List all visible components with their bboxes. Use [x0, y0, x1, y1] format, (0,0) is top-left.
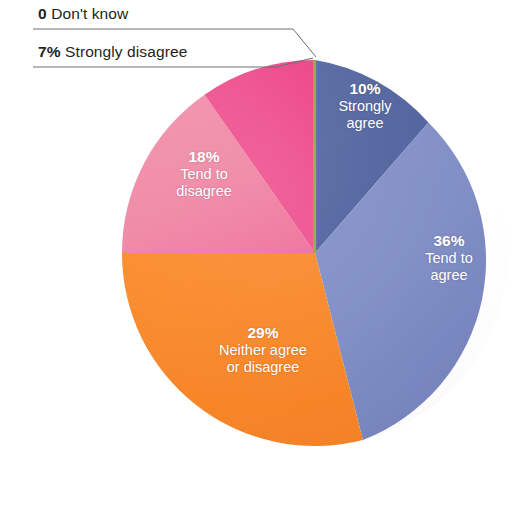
slice-text-strongly-agree-line2: agree	[322, 115, 408, 132]
slice-label-strongly-agree: 10% Strongly agree	[322, 80, 408, 133]
slice-value-neither: 29%	[178, 324, 348, 342]
callout-label-strongly-disagree: 7% Strongly disagree	[38, 43, 187, 61]
slice-value-tend-to-agree: 36%	[404, 232, 494, 250]
callout-text-strongly-disagree: Strongly disagree	[65, 43, 187, 60]
slice-text-strongly-agree-line1: Strongly	[322, 98, 408, 115]
slice-label-tend-to-disagree: 18% Tend to disagree	[152, 148, 256, 201]
slice-text-tend-to-disagree-line1: Tend to	[152, 166, 256, 183]
callout-text-dont-know: Don't know	[51, 5, 128, 22]
slice-value-tend-to-disagree: 18%	[152, 148, 256, 166]
callout-value-dont-know: 0	[38, 5, 47, 22]
slice-label-tend-to-agree: 36% Tend to agree	[404, 232, 494, 285]
slice-text-neither-line2: or disagree	[178, 359, 348, 376]
pie-chart: 0 Don't know 7% Strongly disagree 10% St…	[0, 0, 527, 506]
slice-text-neither-line1: Neither agree	[178, 342, 348, 359]
slice-value-strongly-agree: 10%	[322, 80, 408, 98]
callout-label-dont-know: 0 Don't know	[38, 5, 128, 23]
slice-text-tend-to-agree-line2: agree	[404, 267, 494, 284]
callout-value-strongly-disagree: 7%	[38, 43, 61, 60]
slice-label-neither-agree-or-disagree: 29% Neither agree or disagree	[178, 324, 348, 377]
slice-text-tend-to-agree-line1: Tend to	[404, 250, 494, 267]
slice-text-tend-to-disagree-line2: disagree	[152, 183, 256, 200]
